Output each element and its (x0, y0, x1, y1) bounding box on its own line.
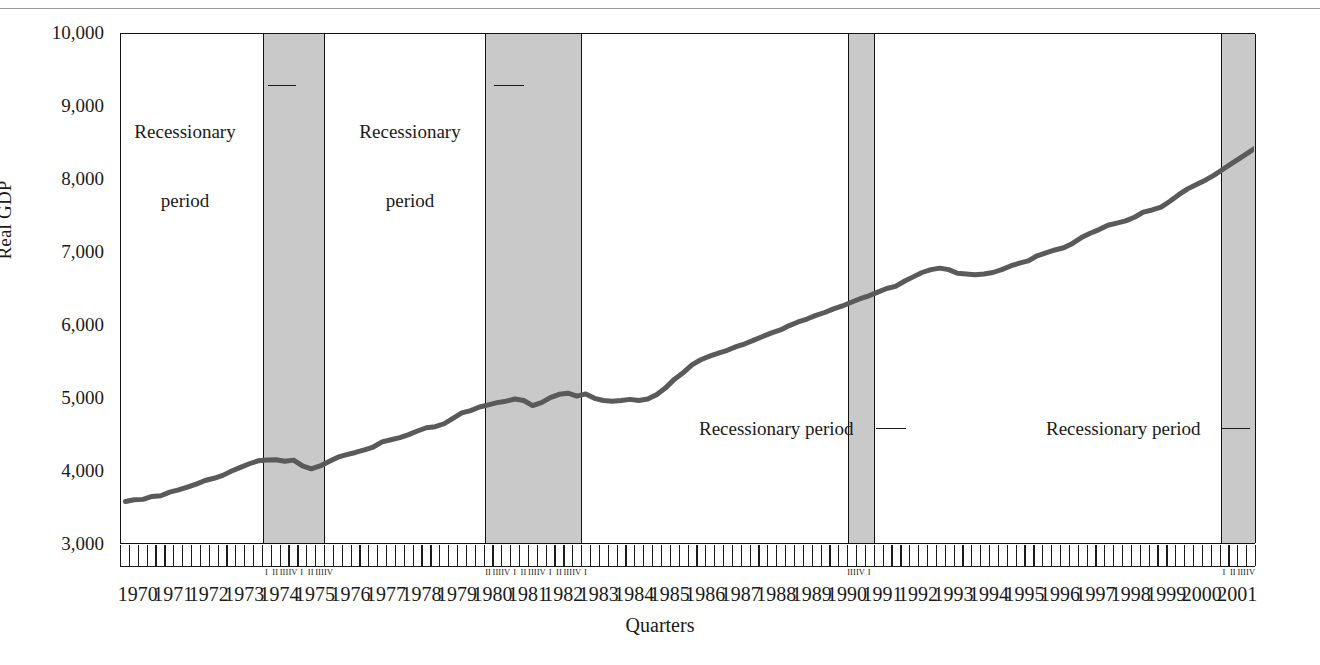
quarter-tick (847, 545, 848, 566)
quarter-tick (554, 545, 555, 566)
leader-line-2 (494, 85, 524, 86)
quarter-tick (1060, 545, 1061, 566)
quarter-tick (173, 545, 174, 566)
quarter-tick (1033, 545, 1034, 566)
quarter-tick (519, 545, 520, 566)
quarter-tick (874, 545, 875, 566)
quarter-tick (954, 545, 955, 566)
quarter-tick (980, 545, 981, 566)
quarter-tick (501, 545, 502, 566)
quarter-tick (120, 545, 121, 566)
plot-area (120, 33, 1255, 544)
quarter-tick (1024, 545, 1025, 566)
quarter-tick (838, 545, 839, 566)
quarter-tick (590, 545, 591, 566)
annotation-recession-1: Recessionary period (95, 74, 275, 258)
quarter-roman-label: IV (317, 568, 339, 577)
quarter-tick (395, 545, 396, 566)
quarter-tick (829, 545, 830, 566)
quarter-tick (421, 545, 422, 566)
quarter-tick (324, 545, 325, 566)
quarter-tick (767, 545, 768, 566)
quarter-tick (714, 545, 715, 566)
quarter-tick (430, 545, 431, 566)
quarter-tick (634, 545, 635, 566)
quarter-tick (439, 545, 440, 566)
quarter-tick (1007, 545, 1008, 566)
quarter-tick (1122, 545, 1123, 566)
quarter-tick (448, 545, 449, 566)
quarter-tick (138, 545, 139, 566)
quarter-tick (218, 545, 219, 566)
quarter-tick (945, 545, 946, 566)
quarter-tick (359, 545, 360, 566)
quarter-tick (927, 545, 928, 566)
annotation-recession-2: Recessionary period (320, 74, 500, 258)
y-tick-label: 9,000 (8, 96, 104, 115)
quarter-tick (1202, 545, 1203, 566)
quarter-tick (679, 545, 680, 566)
quarter-tick (1228, 545, 1229, 566)
quarter-tick (936, 545, 937, 566)
y-tick-label: 3,000 (8, 534, 104, 553)
annotation-recession-4: Recessionary period (1046, 417, 1201, 440)
quarter-tick (1113, 545, 1114, 566)
quarter-tick (1157, 545, 1158, 566)
quarter-tick (457, 545, 458, 566)
y-tick-label: 4,000 (8, 461, 104, 480)
quarter-tick (351, 545, 352, 566)
quarter-tick (510, 545, 511, 566)
quarter-tick (643, 545, 644, 566)
quarter-tick (484, 545, 485, 566)
quarter-tick (271, 545, 272, 566)
quarter-tick (776, 545, 777, 566)
quarter-tick (1140, 545, 1141, 566)
quarter-tick (404, 545, 405, 566)
quarter-tick (226, 545, 227, 566)
quarter-tick (253, 545, 254, 566)
quarter-tick (235, 545, 236, 566)
quarter-tick (1193, 545, 1194, 566)
annotation-recession-1-line2: period (95, 189, 275, 212)
quarter-tick (1104, 545, 1105, 566)
quarter-tick (546, 545, 547, 566)
quarter-tick (191, 545, 192, 566)
quarter-tick (475, 545, 476, 566)
quarter-tick (466, 545, 467, 566)
quarter-tick (1042, 545, 1043, 566)
quarter-tick (989, 545, 990, 566)
quarter-tick (608, 545, 609, 566)
quarter-tick (315, 545, 316, 566)
quarter-tick (617, 545, 618, 566)
quarter-tick (333, 545, 334, 566)
annotation-recession-2-line2: period (320, 189, 500, 212)
quarter-tick (492, 545, 493, 566)
quarter-tick (625, 545, 626, 566)
quarter-tick (413, 545, 414, 566)
quarter-tick (1149, 545, 1150, 566)
quarter-tick (1255, 545, 1256, 566)
quarter-tick (1184, 545, 1185, 566)
quarter-roman-label: IV (1240, 568, 1262, 577)
quarter-tick (1220, 545, 1221, 566)
annotation-recession-3: Recessionary period (699, 417, 854, 440)
quarter-tick (883, 545, 884, 566)
quarter-tick (1237, 545, 1238, 566)
quarter-tick (262, 545, 263, 566)
x-axis-year-labels: 1970197119721973197419751976197719781979… (120, 582, 1255, 608)
y-tick-label: 5,000 (8, 388, 104, 407)
quarter-tick (661, 545, 662, 566)
quarter-tick (891, 545, 892, 566)
y-axis-title: Real GDP (0, 140, 16, 300)
y-tick-label: 6,000 (8, 315, 104, 334)
quarter-tick (386, 545, 387, 566)
quarter-tick (306, 545, 307, 566)
y-tick-label: 10,000 (8, 23, 104, 42)
quarter-tick (1175, 545, 1176, 566)
quarter-tick (147, 545, 148, 566)
quarter-tick (528, 545, 529, 566)
quarter-tick (368, 545, 369, 566)
quarter-tick (1211, 545, 1212, 566)
quarter-tick (918, 545, 919, 566)
quarter-tick (1166, 545, 1167, 566)
